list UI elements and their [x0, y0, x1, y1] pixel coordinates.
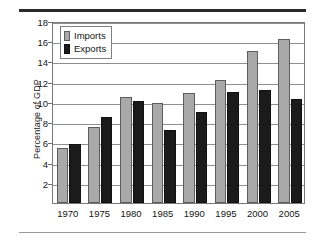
y-axis-tick-label: 2 [18, 178, 48, 189]
legend-label-exports: Exports [74, 43, 106, 54]
bar-imports-2000 [247, 51, 259, 203]
bar-imports-1990 [183, 93, 195, 203]
bar-exports-1980 [133, 101, 145, 203]
bar-imports-1975 [88, 127, 100, 203]
bar-exports-1990 [196, 112, 208, 203]
y-axis-tick-label: 6 [18, 138, 48, 149]
bar-imports-1970 [57, 148, 69, 203]
x-axis-tick-label: 1990 [184, 208, 205, 219]
x-axis-tick-label: 1985 [152, 208, 173, 219]
y-axis-tick-label: 18 [18, 17, 48, 28]
x-axis-tick-label: 2000 [247, 208, 268, 219]
y-axis-tick-label: 10 [18, 97, 48, 108]
bar-imports-2005 [278, 39, 290, 203]
x-axis-tick-label: 1975 [89, 208, 110, 219]
bar-exports-2005 [291, 99, 303, 203]
bar-imports-1995 [215, 80, 227, 203]
top-divider-rule [19, 9, 306, 12]
bar-imports-1980 [120, 97, 132, 203]
legend-swatch-exports [64, 44, 70, 54]
y-axis-tick-label: 14 [18, 57, 48, 68]
bar-exports-1975 [101, 117, 113, 203]
y-axis-tick-label: 12 [18, 77, 48, 88]
legend-label-imports: Imports [74, 30, 106, 41]
legend-swatch-imports [64, 31, 70, 41]
bottom-divider-rule [19, 232, 306, 233]
bar-exports-1995 [227, 92, 239, 203]
chart-legend: Imports Exports [60, 26, 112, 59]
bar-exports-2000 [259, 90, 271, 203]
chart-figure: Percentage of GDP 24681012141618 1970197… [0, 0, 324, 247]
bar-imports-1985 [152, 103, 164, 203]
x-axis-tick-label: 1995 [215, 208, 236, 219]
y-axis-tick-label: 4 [18, 158, 48, 169]
bar-exports-1970 [69, 144, 81, 203]
legend-item-imports: Imports [64, 29, 106, 42]
x-axis-tick-label: 1980 [120, 208, 141, 219]
x-axis-tick-label: 1970 [57, 208, 78, 219]
y-axis-tick-label: 16 [18, 37, 48, 48]
x-axis-tick-label: 2005 [279, 208, 300, 219]
legend-item-exports: Exports [64, 42, 106, 55]
bar-exports-1985 [164, 130, 176, 203]
y-axis-tick-label: 8 [18, 118, 48, 129]
